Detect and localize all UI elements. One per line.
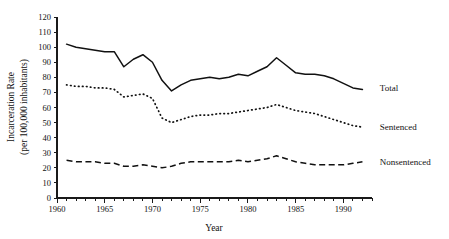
x-tick-label: 1975 xyxy=(192,204,209,214)
y-axis-title-line1: Incarceration Rate xyxy=(6,72,16,142)
series-line-sentenced xyxy=(67,85,363,127)
x-axis-title: Year xyxy=(205,223,223,233)
incarceration-rate-line-chart: Incarceration Rate (per 100,000 inhabita… xyxy=(0,0,449,239)
x-tick-label: 1985 xyxy=(287,204,304,214)
y-tick-label: 80 xyxy=(43,72,52,82)
x-tick-label: 1960 xyxy=(49,204,66,214)
series-line-nonsentenced xyxy=(67,156,363,168)
y-tick-label: 50 xyxy=(43,118,52,128)
y-tick-label: 60 xyxy=(43,103,52,113)
y-tick-label: 10 xyxy=(43,178,52,188)
series-line-total xyxy=(67,44,363,91)
y-tick-label: 0 xyxy=(47,193,51,203)
chart-figure: Incarceration Rate (per 100,000 inhabita… xyxy=(0,0,449,239)
x-tick-label: 1965 xyxy=(96,204,113,214)
series-label-total: Total xyxy=(380,83,399,93)
series-labels: TotalSentencedNonsentenced xyxy=(380,83,431,167)
x-tick-label: 1990 xyxy=(335,204,352,214)
x-axis-ticks: 1960196519701975198019851990 xyxy=(49,198,352,214)
y-axis-title: Incarceration Rate (per 100,000 inhabita… xyxy=(6,59,30,155)
y-tick-label: 40 xyxy=(43,133,52,143)
x-tick-label: 1970 xyxy=(144,204,161,214)
y-tick-label: 110 xyxy=(39,27,51,37)
y-tick-label: 90 xyxy=(43,57,52,67)
y-axis-ticks: 0102030405060708090100110120 xyxy=(38,12,57,203)
y-tick-label: 120 xyxy=(38,12,51,22)
y-axis-title-line2: (per 100,000 inhabitants) xyxy=(19,59,30,155)
series-label-sentenced: Sentenced xyxy=(380,122,417,132)
y-tick-label: 30 xyxy=(43,148,52,158)
series-label-nonsentenced: Nonsentenced xyxy=(380,157,431,167)
y-tick-label: 70 xyxy=(43,87,52,97)
x-tick-label: 1980 xyxy=(239,204,256,214)
y-tick-label: 100 xyxy=(38,42,51,52)
y-tick-label: 20 xyxy=(43,163,52,173)
